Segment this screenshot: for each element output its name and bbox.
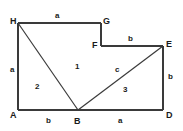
vertex-label-H: H xyxy=(10,17,17,26)
vertex-label-D: D xyxy=(166,111,173,120)
vertex-label-E: E xyxy=(166,40,172,49)
diagonal-BE xyxy=(78,46,163,110)
vertex-label-B: B xyxy=(74,117,81,126)
region-label-2: 2 xyxy=(35,83,39,91)
vertex-label-A: A xyxy=(10,111,17,120)
vertex-label-F: F xyxy=(92,41,98,50)
region-label-1: 1 xyxy=(75,63,79,71)
figure-svg xyxy=(0,0,183,131)
edge-length-label-HG: a xyxy=(55,12,59,20)
diagonal-length-label-BE: c xyxy=(115,66,119,74)
geometry-figure: H G F E D B A a b b a b a c 1 2 3 xyxy=(0,0,183,131)
edge-length-label-ED: b xyxy=(168,73,173,81)
diagonal-HB xyxy=(18,23,78,110)
edge-length-label-BD: a xyxy=(118,117,122,125)
vertex-label-G: G xyxy=(103,17,110,26)
polygon-edges xyxy=(18,23,163,110)
edge-length-label-FE: b xyxy=(128,35,133,43)
edge-length-label-AB: b xyxy=(46,117,51,125)
region-label-3: 3 xyxy=(123,86,127,94)
diagonal-lines xyxy=(18,23,163,110)
edge-length-label-AH: a xyxy=(10,66,14,74)
